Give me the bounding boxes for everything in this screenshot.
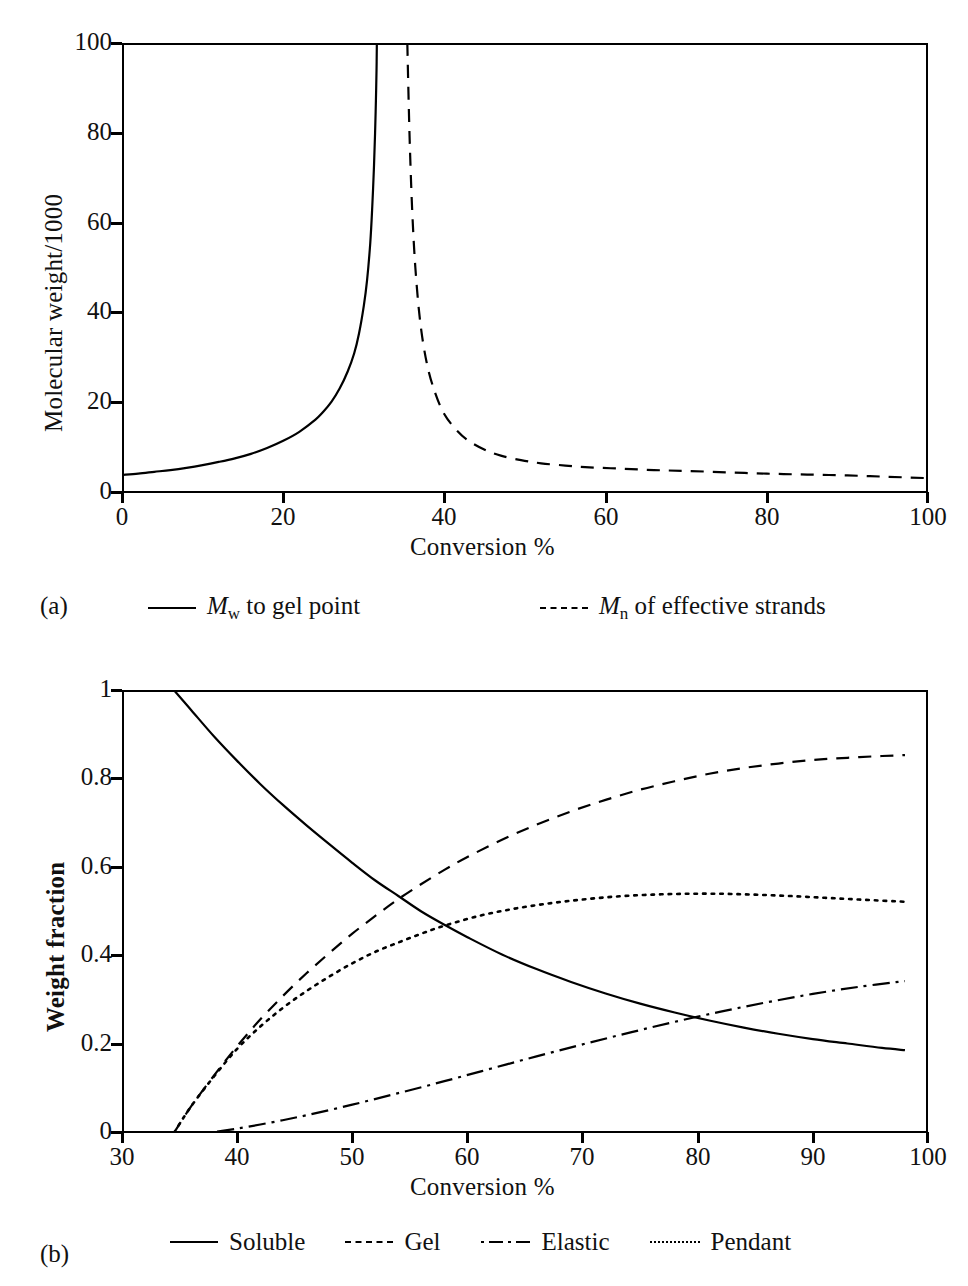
curve-mw-to-gel-point bbox=[122, 43, 377, 475]
curves-a bbox=[0, 0, 968, 620]
legend-item-gel: Gel bbox=[345, 1228, 440, 1256]
figure-container: Molecular weight/1000 100 80 60 40 20 0 … bbox=[0, 0, 968, 1286]
legend-label-mn: Mn of effective strands bbox=[599, 592, 826, 624]
curve-gel bbox=[174, 755, 905, 1133]
panel-a: Molecular weight/1000 100 80 60 40 20 0 … bbox=[0, 0, 968, 620]
curve-soluble bbox=[174, 690, 905, 1050]
panel-tag-a: (a) bbox=[40, 592, 68, 620]
legend-b: Soluble Gel Elastic Pendant bbox=[170, 1228, 791, 1256]
legend-a-2: Mn of effective strands bbox=[540, 592, 826, 624]
legend-label-mw: Mw to gel point bbox=[207, 592, 360, 624]
legend-item-mn: Mn of effective strands bbox=[540, 592, 826, 624]
legend-label-gel: Gel bbox=[404, 1228, 440, 1256]
legend-item-pendant: Pendant bbox=[650, 1228, 792, 1256]
legend-item-elastic: Elastic bbox=[481, 1228, 610, 1256]
curve-elastic bbox=[208, 981, 905, 1133]
legend-label-pendant: Pendant bbox=[711, 1228, 792, 1256]
curve-pendant bbox=[174, 894, 905, 1133]
legend-a: Mw to gel point bbox=[148, 592, 360, 624]
legend-item-mw: Mw to gel point bbox=[148, 592, 360, 624]
panel-tag-b: (b) bbox=[40, 1240, 69, 1268]
curves-b bbox=[0, 640, 968, 1286]
legend-label-soluble: Soluble bbox=[229, 1228, 305, 1256]
curve-mn-of-effective-strands bbox=[407, 43, 928, 478]
legend-item-soluble: Soluble bbox=[170, 1228, 305, 1256]
legend-label-elastic: Elastic bbox=[542, 1228, 610, 1256]
legend-swatch-dashdot-icon bbox=[481, 1240, 531, 1244]
panel-b: Weight fraction 1 0.8 0.6 0.4 0.2 0 30 4… bbox=[0, 640, 968, 1286]
